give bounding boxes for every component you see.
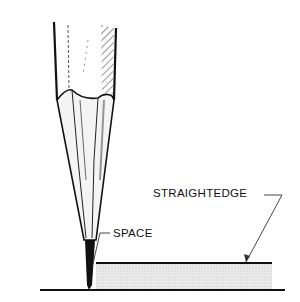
pencil [54, 22, 116, 290]
label-straightedge: STRAIGHTEDGE [153, 187, 247, 199]
straightedge [96, 263, 272, 290]
label-space: SPACE [113, 227, 153, 239]
pencil-straightedge-diagram: STRAIGHTEDGE SPACE [0, 0, 300, 302]
pencil-wood-cone [57, 90, 114, 240]
pencil-lead [85, 240, 95, 290]
